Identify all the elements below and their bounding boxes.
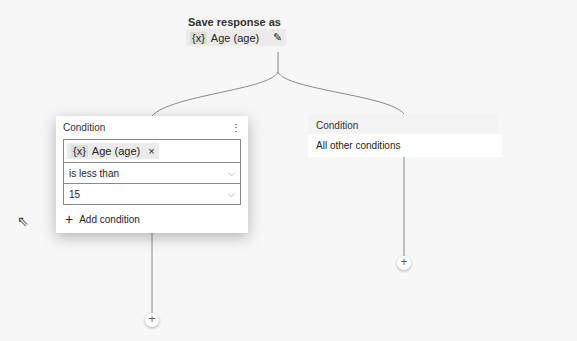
close-icon[interactable]: × [148,145,154,157]
add-condition-button[interactable]: + Add condition [56,205,248,233]
plus-icon: + [65,211,73,227]
variable-label: Age (age) [92,145,140,157]
condition-card: Condition ⋮ {x} Age (age) × is less than… [56,116,248,233]
variable-label: Age (age) [211,32,259,44]
add-node-button-left[interactable]: + [145,313,159,327]
value-dropdown[interactable]: 15 ⌵ [64,183,240,204]
more-options-icon[interactable]: ⋮ [231,122,241,133]
variable-icon: {x} [71,145,88,157]
chevron-down-icon: ⌵ [228,189,235,200]
add-node-button-right[interactable]: + [397,256,411,270]
operator-dropdown[interactable]: is less than ⌵ [64,162,240,183]
variable-icon: {x} [190,32,207,44]
edit-icon[interactable]: ✎ [273,31,282,44]
value-text: 15 [69,189,80,200]
operator-value: is less than [69,168,119,179]
save-response-title: Save response as [188,16,281,28]
condition-fields: {x} Age (age) × is less than ⌵ 15 ⌵ [63,139,241,205]
condition-title: Condition [63,122,105,133]
other-condition-body[interactable]: All other conditions [308,134,502,157]
mouse-cursor-icon: ⇖ [17,213,29,229]
save-variable-chip[interactable]: {x} Age (age) ✎ [186,29,286,46]
variable-row[interactable]: {x} Age (age) × [64,140,240,162]
chevron-down-icon: ⌵ [228,168,235,179]
add-condition-label: Add condition [79,214,140,225]
